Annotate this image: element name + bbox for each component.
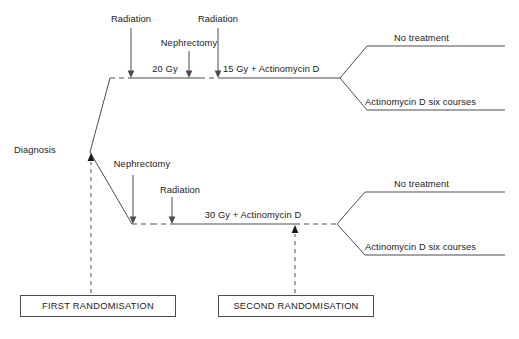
trial-schema-diagram: Diagnosis Radiation Nephrectomy Radiatio… — [0, 0, 519, 339]
lower-dose-30gy-actinomycin-label: 30 Gy + Actinomycin D — [205, 210, 301, 221]
lower-outcome-no-treatment-label: No treatment — [394, 179, 449, 190]
upper-dose-20gy-label: 20 Gy — [152, 64, 177, 75]
lower-nephrectomy-arrow — [130, 175, 137, 224]
upper-nephrectomy-arrow — [186, 51, 193, 78]
upper-fork-top-diagonal — [340, 46, 367, 78]
schema-drawing — [0, 0, 519, 339]
upper-radiation-2-arrow — [215, 28, 222, 78]
upper-nephrectomy-label: Nephrectomy — [161, 38, 217, 49]
upper-fork-bottom-diagonal — [340, 78, 367, 110]
lower-radiation-label: Radiation — [160, 185, 200, 196]
upper-radiation-1-arrow — [128, 28, 135, 78]
diagnosis-to-upper-arm-line — [90, 78, 110, 152]
lower-nephrectomy-label: Nephrectomy — [114, 159, 170, 170]
upper-radiation-1-label: Radiation — [111, 14, 151, 25]
lower-fork-bottom-diagonal — [337, 224, 365, 255]
diagnosis-split-lines — [90, 78, 132, 224]
lower-arm-event-arrows — [130, 175, 176, 224]
lower-outcome-actinomycin-label: Actinomycin D six courses — [365, 242, 476, 253]
first-randomisation-callout-arrow — [88, 153, 95, 293]
second-randomisation-callout-arrow — [292, 225, 299, 293]
upper-radiation-2-label: Radiation — [198, 14, 238, 25]
lower-fork-top-diagonal — [337, 192, 365, 224]
upper-outcome-actinomycin-label: Actinomycin D six courses — [365, 97, 476, 108]
lower-radiation-arrow — [169, 197, 176, 224]
first-randomisation-label: FIRST RANDOMISATION — [42, 301, 154, 312]
diagnosis-label: Diagnosis — [14, 145, 56, 156]
second-randomisation-label: SECOND RANDOMISATION — [233, 301, 358, 312]
upper-outcome-no-treatment-label: No treatment — [394, 33, 449, 44]
upper-dose-15gy-actinomycin-label: 15 Gy + Actinomycin D — [223, 64, 319, 75]
